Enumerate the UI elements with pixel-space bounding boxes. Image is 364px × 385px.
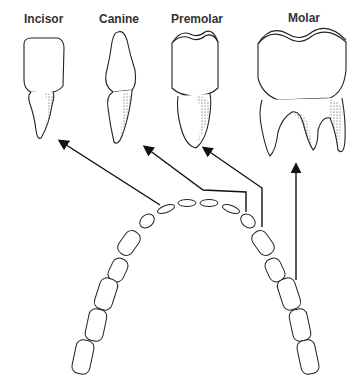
arrow-premolar [204,148,262,227]
teeth-diagram [0,0,364,385]
arrow-incisor [60,141,160,205]
dental-arch [71,200,321,376]
canine-tooth [106,32,136,143]
premolar-tooth [172,31,218,148]
molar-tooth [258,28,346,156]
arrows [60,141,296,280]
incisor-tooth [24,38,64,138]
